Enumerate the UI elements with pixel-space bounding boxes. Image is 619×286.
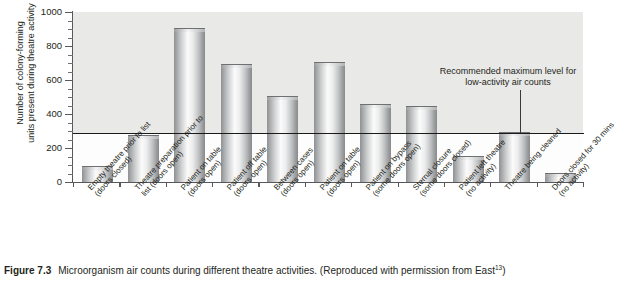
y-tick-0: [65, 182, 73, 183]
y-minor-tick-100: [68, 165, 73, 166]
x-tick-3: [212, 183, 213, 187]
y-tick-label-800: 800: [16, 41, 62, 51]
y-tick-label-400: 400: [16, 109, 62, 119]
x-tick-5: [305, 183, 306, 187]
y-tick-800: [65, 46, 73, 47]
x-tick-11: [583, 183, 584, 187]
x-tick-9: [490, 183, 491, 187]
figure-caption-tail: ): [502, 265, 505, 276]
reference-line: [73, 133, 584, 135]
figure-caption: Figure 7.3Microorganism air counts durin…: [4, 262, 596, 277]
y-tick-400: [65, 114, 73, 115]
y-minor-tick-750: [68, 55, 73, 56]
y-tick-1000: [65, 12, 73, 13]
y-tick-label-200: 200: [16, 143, 62, 153]
x-tick-8: [444, 183, 445, 187]
y-minor-tick-850: [68, 38, 73, 39]
figure-caption-text: Microorganism air counts during differen…: [58, 265, 495, 276]
y-minor-tick-550: [68, 89, 73, 90]
y-tick-label-0: 0: [16, 177, 62, 187]
y-tick-600: [65, 80, 73, 81]
figure-caption-label: Figure 7.3: [4, 265, 51, 276]
y-minor-tick-50: [68, 174, 73, 175]
y-tick-label-1000: 1000: [16, 7, 62, 17]
y-minor-tick-950: [68, 21, 73, 22]
y-minor-tick-250: [68, 140, 73, 141]
x-tick-7: [398, 183, 399, 187]
y-minor-tick-150: [68, 157, 73, 158]
y-minor-tick-350: [68, 123, 73, 124]
annotation-leader-line: [520, 90, 521, 133]
y-minor-tick-700: [68, 63, 73, 64]
x-tick-2: [166, 183, 167, 187]
y-minor-tick-500: [68, 97, 73, 98]
x-tick-1: [119, 183, 120, 187]
x-tick-6: [351, 183, 352, 187]
reference-line-annotation: Recommended maximum level for low-activi…: [432, 66, 584, 88]
x-tick-10: [537, 183, 538, 187]
y-minor-tick-900: [68, 29, 73, 30]
y-tick-200: [65, 148, 73, 149]
y-minor-tick-650: [68, 72, 73, 73]
x-tick-0: [73, 183, 74, 187]
x-tick-4: [258, 183, 259, 187]
y-minor-tick-450: [68, 106, 73, 107]
y-tick-label-600: 600: [16, 75, 62, 85]
